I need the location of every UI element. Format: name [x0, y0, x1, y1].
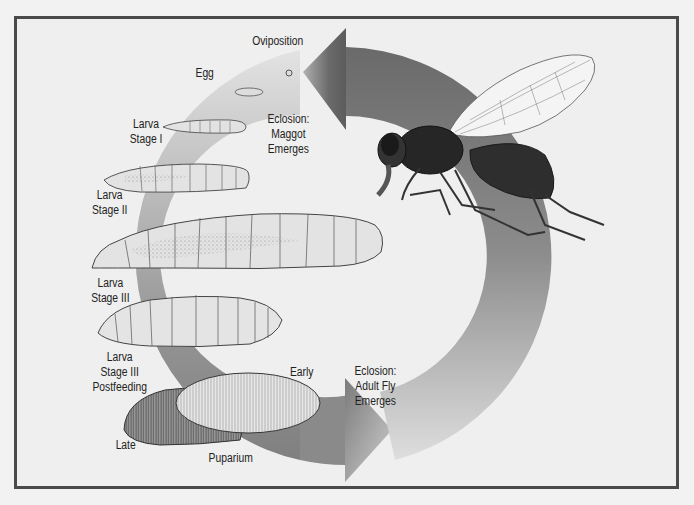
arrowhead-oviposition	[303, 28, 346, 130]
label-larva-stage-1: Larva Stage I	[130, 117, 163, 147]
label-puparium-early: Early	[290, 365, 314, 380]
larva-stage-3-illustration	[92, 214, 383, 269]
label-puparium: Puparium	[209, 451, 253, 466]
label-larva-stage-2: Larva Stage II	[92, 188, 128, 218]
label-eclosion-maggot: Eclosion: Maggot Emerges	[267, 112, 309, 157]
larva-hatchling	[235, 88, 263, 96]
label-larva-stage-3-postfeeding: Larva Stage III Postfeeding	[92, 350, 147, 395]
label-egg: Egg	[195, 66, 213, 81]
larva-stage-1-illustration	[163, 120, 246, 133]
life-cycle-illustration	[0, 0, 694, 505]
puparium-early-illustration	[176, 373, 320, 433]
label-puparium-late: Late	[116, 438, 136, 453]
label-oviposition: Oviposition	[252, 34, 303, 49]
label-eclosion-adult: Eclosion: Adult Fly Emerges	[354, 364, 396, 409]
label-larva-stage-3: Larva Stage III	[91, 276, 129, 306]
